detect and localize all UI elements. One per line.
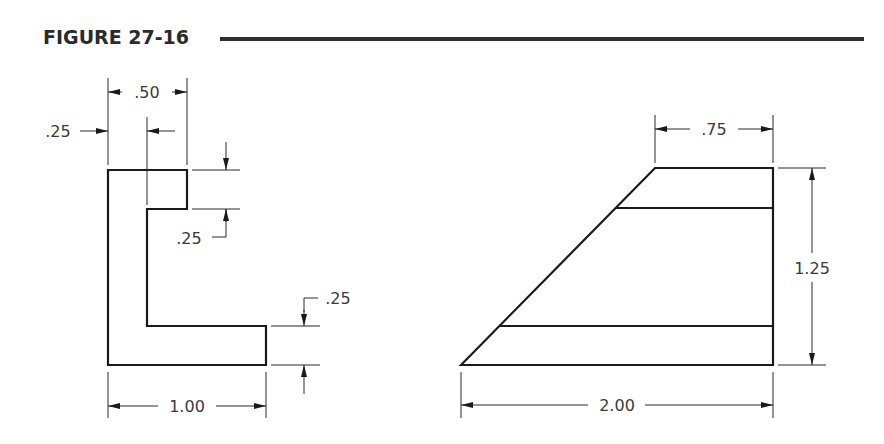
dim-trap-top-width: .75 xyxy=(655,120,773,139)
dim-trap-height: 1.25 xyxy=(794,168,830,365)
dim-wall-thickness: .25 xyxy=(45,122,175,141)
left-view: .50 .25 .25 .25 xyxy=(45,78,350,418)
dim-top-width-label: .50 xyxy=(134,83,159,102)
dim-notch-depth: .25 xyxy=(176,142,226,248)
dim-trap-height-label: 1.25 xyxy=(794,259,830,278)
dim-base-thickness: .25 xyxy=(304,289,351,394)
dim-overall-width-label: 1.00 xyxy=(169,397,205,416)
right-view: .75 1.25 2.00 xyxy=(461,115,830,418)
dim-wall-thickness-label: .25 xyxy=(45,122,70,141)
l-shape-outline xyxy=(108,170,266,365)
dim-trap-bottom-width-label: 2.00 xyxy=(599,396,635,415)
drawing-canvas: .50 .25 .25 .25 xyxy=(0,0,884,444)
dim-notch-depth-label: .25 xyxy=(176,229,201,248)
dim-base-thickness-label: .25 xyxy=(325,289,350,308)
dim-trap-top-width-label: .75 xyxy=(701,120,726,139)
dim-trap-bottom-width: 2.00 xyxy=(461,396,773,415)
trapezoid-outline xyxy=(461,168,773,365)
dim-overall-width: 1.00 xyxy=(108,397,266,416)
dim-top-width: .50 xyxy=(108,83,187,102)
